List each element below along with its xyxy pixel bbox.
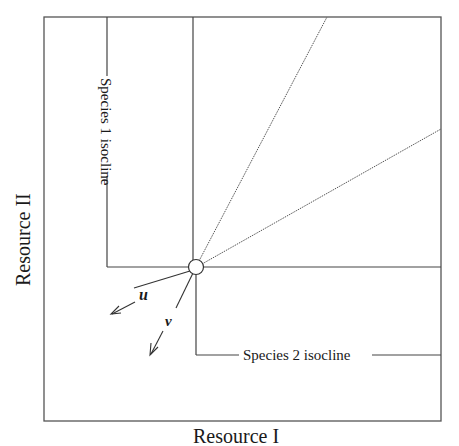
vector-u: [111, 271, 190, 314]
y-axis-label: Resource II: [12, 193, 34, 286]
species-2-isocline-label: Species 2 isocline: [243, 347, 351, 363]
species-1-isocline: [107, 17, 441, 267]
vector-v-label: v: [165, 313, 172, 329]
steep-ray: [199, 17, 327, 261]
resource-competition-diagram: Species 1 isocline Species 2 isocline u …: [0, 0, 459, 446]
shallow-ray: [202, 129, 441, 264]
x-axis-label: Resource I: [193, 425, 279, 446]
vector-u-label: u: [139, 286, 148, 303]
equilibrium-point: [189, 260, 204, 275]
species-2-isocline: [193, 17, 441, 355]
species-1-isocline-label: Species 1 isocline: [98, 78, 114, 186]
